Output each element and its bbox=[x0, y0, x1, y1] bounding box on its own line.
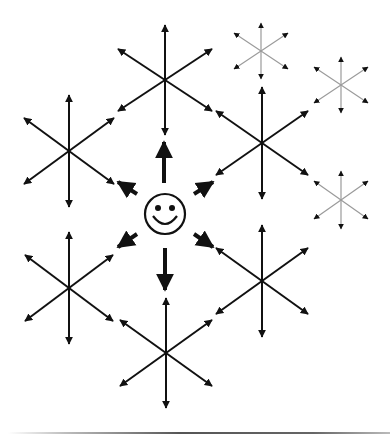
star-arrow bbox=[165, 80, 212, 111]
star-arrow bbox=[216, 281, 262, 314]
star-arrow bbox=[314, 85, 341, 103]
star-arrow bbox=[341, 67, 368, 85]
move-stars bbox=[24, 23, 368, 408]
star-arrow bbox=[341, 181, 368, 200]
right-eye bbox=[169, 205, 175, 211]
arrow-down-right-icon bbox=[194, 234, 213, 247]
star-faded-3 bbox=[314, 171, 368, 229]
star-arrow bbox=[118, 80, 165, 111]
face-outline bbox=[145, 194, 185, 234]
star-right-upper bbox=[216, 87, 308, 199]
star-arrow bbox=[24, 118, 69, 151]
star-arrow bbox=[118, 49, 165, 80]
star-right-lower bbox=[216, 225, 308, 337]
star-arrow bbox=[234, 51, 261, 69]
star-arrow bbox=[25, 288, 69, 321]
star-faded-1 bbox=[234, 23, 288, 79]
left-eye bbox=[155, 205, 161, 211]
arrow-up-right-icon bbox=[194, 182, 213, 194]
smiley-face-icon bbox=[145, 194, 185, 234]
star-arrow bbox=[216, 248, 262, 281]
star-arrow bbox=[69, 151, 114, 184]
star-arrow bbox=[341, 85, 368, 103]
star-arrow bbox=[261, 51, 288, 69]
star-arrow bbox=[314, 200, 341, 219]
star-arrow bbox=[69, 288, 113, 321]
arrow-down-left-icon bbox=[118, 234, 137, 247]
star-left-upper bbox=[24, 95, 114, 207]
star-arrow bbox=[341, 200, 368, 219]
star-arrow bbox=[165, 49, 212, 80]
star-arrow bbox=[262, 281, 308, 314]
star-faded-2 bbox=[314, 57, 368, 113]
star-top bbox=[118, 25, 212, 135]
star-arrow bbox=[262, 111, 308, 143]
arrow-up-left-icon bbox=[118, 182, 137, 194]
star-arrow bbox=[262, 248, 308, 281]
star-arrow bbox=[166, 353, 212, 386]
star-arrow bbox=[216, 143, 262, 175]
star-arrow bbox=[314, 181, 341, 200]
star-arrow bbox=[262, 143, 308, 175]
star-arrow bbox=[166, 320, 212, 353]
star-bottom bbox=[120, 298, 212, 408]
star-arrow bbox=[69, 255, 113, 288]
star-arrow bbox=[120, 353, 166, 386]
star-arrow bbox=[69, 118, 114, 151]
star-arrow bbox=[314, 67, 341, 85]
star-arrow bbox=[25, 255, 69, 288]
star-arrow bbox=[24, 151, 69, 184]
star-arrow bbox=[216, 111, 262, 143]
bottom-divider bbox=[8, 432, 390, 434]
star-arrow bbox=[120, 320, 166, 353]
diagram-canvas bbox=[0, 0, 390, 435]
star-left-lower bbox=[25, 232, 113, 344]
star-arrow bbox=[261, 33, 288, 51]
star-arrow bbox=[234, 33, 261, 51]
